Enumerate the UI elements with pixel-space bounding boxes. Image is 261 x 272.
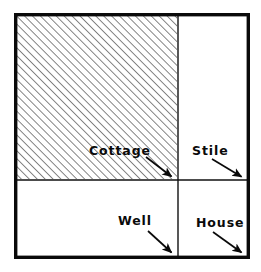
region-label-house: House: [196, 217, 244, 230]
diagram-page: Cottage Stile Well House: [0, 0, 261, 272]
region-label-well: Well: [118, 215, 152, 228]
region-label-stile: Stile: [192, 145, 229, 158]
plot-plan-diagram: [0, 0, 261, 272]
region-label-cottage: Cottage: [89, 145, 151, 158]
